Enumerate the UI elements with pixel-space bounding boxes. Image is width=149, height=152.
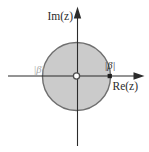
re-axis-label: Re(z) xyxy=(113,80,139,93)
beta-left-label: |β| xyxy=(33,64,44,75)
im-axis-label: Im(z) xyxy=(47,10,73,23)
real-axis-arrow-icon xyxy=(134,72,145,79)
complex-plane-figure: Im(z) Re(z) |β| |β| xyxy=(0,0,149,152)
origin-marker-icon xyxy=(73,73,79,79)
beta-right-label: |β| xyxy=(104,60,115,71)
beta-point-marker-icon xyxy=(108,74,112,78)
z-plane-diagram: Im(z) Re(z) |β| |β| xyxy=(0,0,149,152)
imaginary-axis-arrow-icon xyxy=(74,7,81,19)
